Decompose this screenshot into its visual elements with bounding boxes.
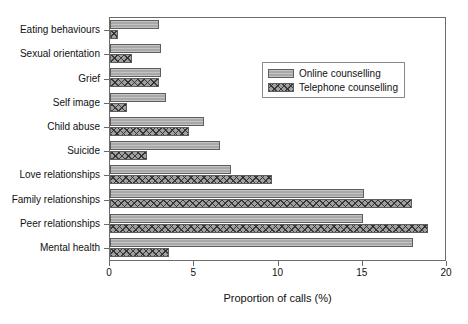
y-axis-tick-mark	[104, 103, 109, 104]
bar-online	[110, 20, 159, 29]
legend-label-telephone: Telephone counselling	[299, 82, 398, 93]
bar-online	[110, 44, 161, 53]
bar-online	[110, 238, 413, 247]
bar-telephone	[110, 224, 428, 233]
y-axis-tick-label: Suicide	[0, 146, 100, 156]
x-axis-tick-mark	[278, 261, 279, 266]
x-axis-tick-label: 5	[178, 268, 208, 278]
y-axis-tick-mark	[104, 224, 109, 225]
y-axis-tick-mark	[104, 175, 109, 176]
bar-telephone	[110, 54, 132, 63]
bar-telephone	[110, 127, 189, 136]
y-axis-tick-label: Love relationships	[0, 170, 100, 180]
bar-group	[110, 117, 446, 141]
bars-container	[110, 18, 446, 260]
x-axis-title: Proportion of calls (%)	[109, 292, 446, 304]
bar-telephone	[110, 151, 147, 160]
y-axis-tick-mark	[104, 30, 109, 31]
bar-online	[110, 214, 363, 223]
y-axis-tick-mark	[104, 54, 109, 55]
x-axis-tick-label: 20	[431, 268, 461, 278]
bar-telephone	[110, 78, 159, 87]
bar-online	[110, 141, 220, 150]
bar-online	[110, 189, 364, 198]
legend-label-online: Online counselling	[299, 68, 381, 79]
y-axis-tick-mark	[104, 127, 109, 128]
bar-online	[110, 93, 166, 102]
x-axis-tick-mark	[109, 261, 110, 266]
bar-telephone	[110, 103, 127, 112]
bar-telephone	[110, 199, 412, 208]
y-axis-tick-label: Child abuse	[0, 122, 100, 132]
y-axis-tick-label: Eating behaviours	[0, 25, 100, 35]
bar-telephone	[110, 175, 272, 184]
y-axis-tick-label: Peer relationships	[0, 219, 100, 229]
y-axis-tick-mark	[104, 79, 109, 80]
bar-online	[110, 165, 231, 174]
bar-group	[110, 214, 446, 238]
bar-online	[110, 68, 161, 77]
x-axis-tick-mark	[193, 261, 194, 266]
x-axis-tick-label: 15	[347, 268, 377, 278]
x-axis-tick-label: 10	[263, 268, 293, 278]
y-axis-tick-label: Grief	[0, 74, 100, 84]
x-axis-tick-label: 0	[94, 268, 124, 278]
y-axis-tick-mark	[104, 200, 109, 201]
legend-swatch-telephone-icon	[268, 83, 294, 92]
bar-group	[110, 20, 446, 44]
legend-swatch-online-icon	[268, 69, 294, 78]
bar-telephone	[110, 248, 169, 257]
bar-group	[110, 238, 446, 262]
y-axis-tick-mark	[104, 151, 109, 152]
bar-group	[110, 165, 446, 189]
bar-group	[110, 189, 446, 213]
bar-online	[110, 117, 204, 126]
chart-legend: Online counselling Telephone counselling	[262, 62, 405, 98]
x-axis-tick-mark	[446, 261, 447, 266]
bar-chart: Eating behavioursSexual orientationGrief…	[0, 0, 468, 324]
y-axis-tick-label: Mental health	[0, 243, 100, 253]
x-axis-tick-mark	[362, 261, 363, 266]
bar-telephone	[110, 30, 118, 39]
y-axis-tick-label: Sexual orientation	[0, 49, 100, 59]
legend-item-telephone: Telephone counselling	[268, 81, 398, 93]
y-axis-tick-label: Self image	[0, 98, 100, 108]
y-axis-tick-mark	[104, 248, 109, 249]
legend-item-online: Online counselling	[268, 67, 398, 79]
bar-group	[110, 141, 446, 165]
y-axis-tick-label: Family relationships	[0, 195, 100, 205]
